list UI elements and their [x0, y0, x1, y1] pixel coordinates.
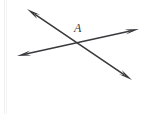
line-descending-group — [27, 9, 132, 80]
intersecting-lines-drawing — [0, 0, 151, 114]
geometry-figure-canvas: A — [0, 0, 151, 114]
point-label-a: A — [74, 22, 81, 34]
